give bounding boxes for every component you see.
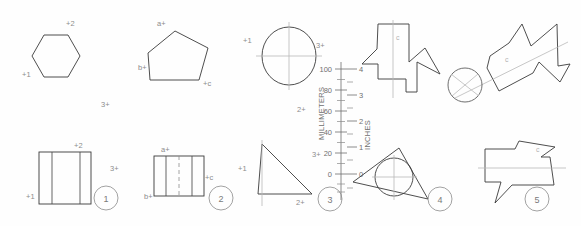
star-polygon-shape: [487, 24, 570, 91]
marker-1: 1: [94, 186, 118, 210]
rectangle-figure: [154, 156, 204, 196]
triangle-figure: [258, 140, 312, 206]
small-circle-crosshair-figure: [448, 68, 482, 102]
circle-label-left: +1: [243, 36, 252, 45]
metric-value-100: 100: [319, 65, 332, 74]
marker-4-number: 4: [437, 195, 442, 205]
rectangle-shape: [154, 156, 204, 196]
marker-2: 2: [209, 186, 233, 210]
star-polygon-diagonal-line: [455, 42, 568, 98]
imperial-scale-title: INCHES: [363, 120, 372, 150]
hexagon-figure: [32, 35, 80, 77]
triangle-shape: [258, 144, 312, 194]
marker-4: 4: [428, 187, 452, 211]
hexagon-label-lower-right: 3+: [101, 100, 110, 109]
hexagon-label-top: +2: [66, 19, 75, 28]
square-figure: [39, 152, 91, 204]
star-polygon-figure: [455, 24, 570, 98]
triangle-label-left: +1: [238, 164, 247, 173]
marker-3: 3: [318, 187, 342, 211]
marker-2-number: 2: [218, 194, 223, 204]
inch-value-4: 4: [359, 65, 363, 74]
marker-5-number: 5: [534, 195, 539, 205]
rectangle-label-top-left: a+: [161, 145, 170, 154]
metric-value-0: 0: [328, 170, 332, 179]
rectangle-label-left: b+: [144, 192, 153, 201]
ruler-scale: 100 80 60 40 20 0 4 3 2 1 0 MILLIMETERS …: [317, 62, 372, 200]
drawing-canvas: +2 +1 3+ a+ b+ +c +1 3+ 2+: [0, 0, 581, 226]
square-shape: [39, 152, 91, 204]
circle-crosshair-figure: [256, 22, 322, 90]
balloon-inner-label: c: [536, 146, 540, 153]
metric-scale-title: MILLIMETERS: [317, 87, 326, 140]
marker-1-number: 1: [103, 194, 108, 204]
pentagon-label-bottom-right: +c: [203, 79, 211, 88]
metric-value-20: 20: [324, 149, 332, 158]
pentagon-shape: [148, 31, 208, 80]
rectangle-label-right: +c: [205, 173, 213, 182]
balloon-figure: [478, 141, 566, 203]
circle-label-right: 3+: [316, 41, 325, 50]
triangle-circle-figure: [353, 148, 428, 200]
inch-value-3: 3: [359, 91, 363, 100]
arrow-polygon-inner-label: c: [396, 34, 400, 41]
hexagon-label-left: +1: [22, 70, 31, 79]
marker-5: 5: [525, 187, 549, 211]
square-label-right: 3+: [110, 164, 119, 173]
arrow-polygon-figure: [362, 20, 440, 98]
drawing-sheet: +2 +1 3+ a+ b+ +c +1 3+ 2+: [0, 0, 581, 226]
pentagon-label-left: b+: [138, 63, 147, 72]
square-label-top: +2: [74, 141, 83, 150]
square-label-left: +1: [26, 192, 35, 201]
circle-label-bottom: 2+: [297, 105, 306, 114]
triangle-label-right: 3+: [312, 150, 321, 159]
triangle-label-bottom: 2+: [296, 198, 305, 207]
arrow-polygon-shape: [362, 24, 440, 92]
pentagon-figure: [148, 31, 208, 80]
marker-3-number: 3: [327, 195, 332, 205]
hexagon-shape: [32, 35, 80, 77]
balloon-shape: [485, 141, 555, 203]
star-polygon-inner-label: c: [505, 56, 509, 63]
pentagon-label-top-left: a+: [157, 19, 166, 28]
triangle-circle-outline: [353, 148, 428, 199]
